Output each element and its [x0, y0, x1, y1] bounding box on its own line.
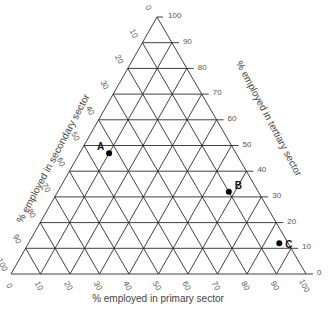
secondary-gridline: [113, 94, 217, 274]
secondary-tick-label: 30: [98, 79, 110, 92]
axis-titles: % employed in primary sector % employed …: [14, 59, 304, 304]
tertiary-tick-label: 50: [243, 140, 252, 149]
secondary-gridline: [142, 43, 276, 274]
tertiary-tick-label: 0: [317, 268, 322, 277]
ternary-diagram: 0102030405060708090100010203040506070809…: [0, 0, 329, 311]
tertiary-tick-label: 80: [198, 63, 207, 72]
primary-gridline: [100, 94, 202, 274]
tertiary-tick-label: 10: [302, 242, 311, 251]
primary-tick-label: 20: [62, 280, 74, 293]
point-label-b: B: [235, 180, 242, 191]
primary-tick-label: 40: [121, 280, 133, 293]
secondary-tick-label: 20: [113, 53, 125, 66]
primary-tick-label: 10: [33, 280, 45, 293]
tertiary-tick-label: 70: [213, 88, 222, 97]
secondary-gridline: [55, 197, 100, 274]
point-b: [226, 189, 232, 195]
tertiary-tick-label: 30: [272, 191, 281, 200]
point-c: [276, 240, 282, 246]
primary-gridline: [218, 197, 262, 274]
secondary-gridline: [84, 146, 159, 275]
tertiary-tick-label: 20: [287, 217, 296, 226]
primary-tick-label: 0: [4, 282, 14, 291]
tertiary-axis-title: % employed in tertiary sector: [234, 59, 305, 179]
tick-labels: 0102030405060708090100010203040506070809…: [0, 4, 322, 295]
primary-tick-label: 80: [239, 280, 251, 293]
tertiary-tick-label: 100: [168, 11, 182, 20]
primary-tick-label: 30: [92, 280, 104, 293]
point-a: [106, 150, 112, 156]
primary-tick-label: 50: [151, 280, 163, 293]
secondary-gridline: [26, 248, 41, 274]
secondary-tick-label: 90: [11, 233, 23, 246]
secondary-tick-label: 0: [143, 4, 153, 13]
primary-tick-label: 90: [269, 280, 281, 293]
point-label-a: A: [97, 141, 104, 152]
primary-gridline: [277, 248, 292, 274]
tertiary-tick-label: 40: [257, 165, 266, 174]
secondary-tick-label: 10: [128, 27, 140, 40]
primary-tick-label: 100: [297, 278, 311, 294]
tertiary-tick-label: 60: [228, 114, 237, 123]
primary-tick-label: 60: [180, 280, 192, 293]
secondary-tick-label: 100: [0, 257, 10, 273]
primary-gridline: [159, 146, 232, 275]
tertiary-tick-label: 90: [183, 37, 192, 46]
primary-tick-label: 70: [210, 280, 222, 293]
point-label-c: C: [285, 239, 292, 250]
primary-axis-title: % employed in primary sector: [92, 293, 224, 304]
